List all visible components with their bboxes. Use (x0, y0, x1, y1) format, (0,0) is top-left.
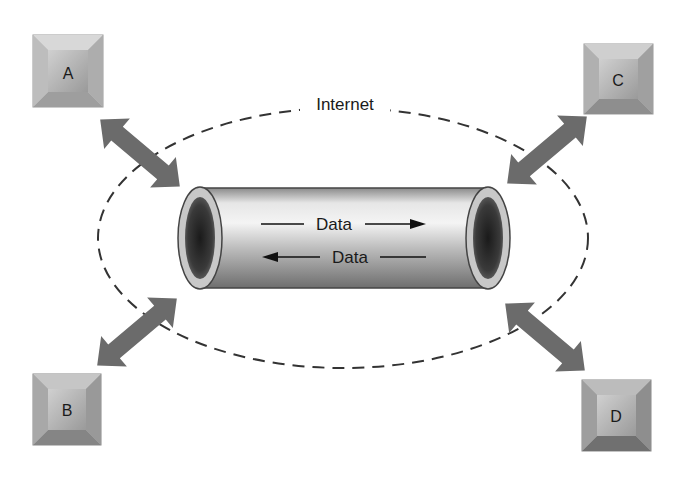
node-a[interactable]: A (33, 35, 103, 107)
node-a-label: A (63, 65, 74, 82)
node-c[interactable]: C (584, 44, 653, 114)
node-d-label: D (610, 408, 622, 425)
arrow-c (494, 101, 599, 198)
tunnel-pipe (178, 187, 510, 289)
node-c-label: C (612, 72, 624, 89)
data-forward-label: Data (316, 215, 352, 234)
node-d[interactable]: D (582, 380, 651, 451)
arrow-d (492, 288, 597, 385)
data-reverse-label: Data (332, 248, 368, 267)
arrow-b (84, 283, 189, 380)
internet-label: Internet (316, 95, 374, 114)
arrow-a (87, 104, 192, 201)
node-b[interactable]: B (33, 374, 101, 445)
vpn-tunnel-diagram: Internet Data Data A (0, 0, 688, 483)
node-b-label: B (62, 402, 73, 419)
